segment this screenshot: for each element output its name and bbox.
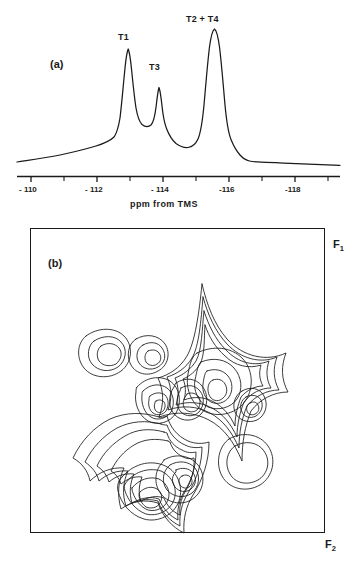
peak-label-t2-t4: T2 + T4: [186, 14, 219, 24]
axis-label-f1-letter: F: [333, 238, 340, 250]
peak-label-t3: T3: [149, 62, 160, 72]
axis-label-f1-subscript: 1: [340, 244, 344, 253]
contour-plot-frame: [30, 228, 325, 533]
x-tick-label-112: - 112: [85, 185, 103, 194]
axis-label-f2: F2: [325, 538, 336, 553]
panel-a-1d-spectrum: (a) T1 T3 T2 + T4 - 110 - 112 - 114 -116…: [0, 0, 363, 212]
axis-label-f2-letter: F: [325, 538, 332, 550]
panel-b-tag: (b): [48, 257, 62, 269]
contour-satellite-upper-left-b: [128, 336, 168, 375]
contour-cross-peak-lower-mid: [156, 456, 203, 503]
axis-label-f2-subscript: 2: [332, 544, 336, 553]
spectrum-plot: [0, 0, 363, 212]
x-tick-label-110: - 110: [19, 185, 37, 194]
x-tick-label-114: - 114: [151, 185, 169, 194]
contour-satellite-upper-left-a: [79, 329, 131, 376]
spectrum-trace: [17, 29, 340, 165]
x-axis-title: ppm from TMS: [130, 199, 198, 209]
x-axis-major-ticks: [31, 177, 295, 183]
panel-a-tag: (a): [50, 58, 63, 70]
peak-label-t1: T1: [118, 32, 129, 42]
contour-peak-diagonal-lower-left: [73, 413, 209, 533]
contour-satellite-right-lower: [218, 435, 272, 490]
x-tick-label-116: -116: [219, 185, 235, 194]
axis-label-f1: F1: [333, 238, 344, 253]
x-tick-label-118: -118: [285, 185, 301, 194]
contour-plot: [31, 229, 326, 534]
nmr-figure: (a) T1 T3 T2 + T4 - 110 - 112 - 114 -116…: [0, 0, 363, 565]
panel-b-2d-contour: (b) F1 F2: [0, 212, 363, 565]
